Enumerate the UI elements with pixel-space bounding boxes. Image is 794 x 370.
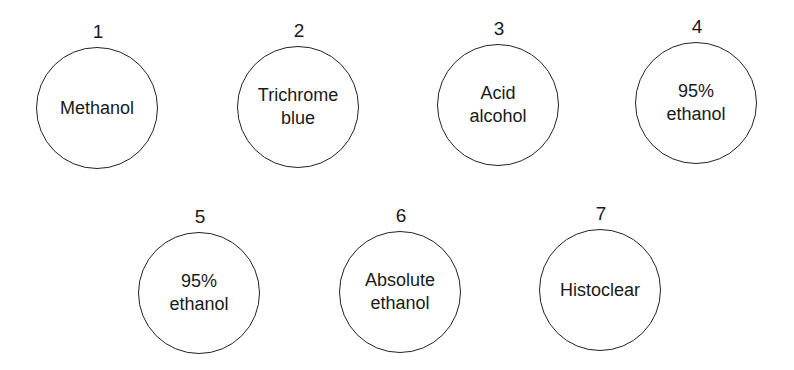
step-number: 7 <box>539 204 663 224</box>
reagent-circle: Absolute ethanol <box>339 231 461 353</box>
step-number: 3 <box>437 19 561 39</box>
step-number: 1 <box>36 22 160 42</box>
reagent-label: Histoclear <box>560 279 640 302</box>
step-1: 1 Methanol <box>36 22 160 172</box>
reagent-circle: 95% ethanol <box>635 42 757 164</box>
reagent-label: Acid alcohol <box>469 82 526 128</box>
reagent-circle: Methanol <box>36 47 158 169</box>
reagent-label: 95% ethanol <box>169 270 228 316</box>
step-number: 5 <box>138 207 262 227</box>
reagent-label: Methanol <box>60 97 134 120</box>
step-6: 6 Absolute ethanol <box>339 206 463 356</box>
reagent-circle: Acid alcohol <box>437 44 559 166</box>
reagent-circle: Histoclear <box>539 229 661 351</box>
step-7: 7 Histoclear <box>539 204 663 354</box>
reagent-circle: Trichrome blue <box>237 46 359 168</box>
step-number: 2 <box>237 21 361 41</box>
step-2: 2 Trichrome blue <box>237 21 361 171</box>
step-5: 5 95% ethanol <box>138 207 262 357</box>
step-number: 6 <box>339 206 463 226</box>
reagent-label: Absolute ethanol <box>365 269 435 315</box>
reagent-label: Trichrome blue <box>258 84 338 130</box>
step-3: 3 Acid alcohol <box>437 19 561 169</box>
step-number: 4 <box>635 17 759 37</box>
reagent-circle: 95% ethanol <box>138 232 260 354</box>
step-4: 4 95% ethanol <box>635 17 759 167</box>
reagent-label: 95% ethanol <box>666 80 725 126</box>
